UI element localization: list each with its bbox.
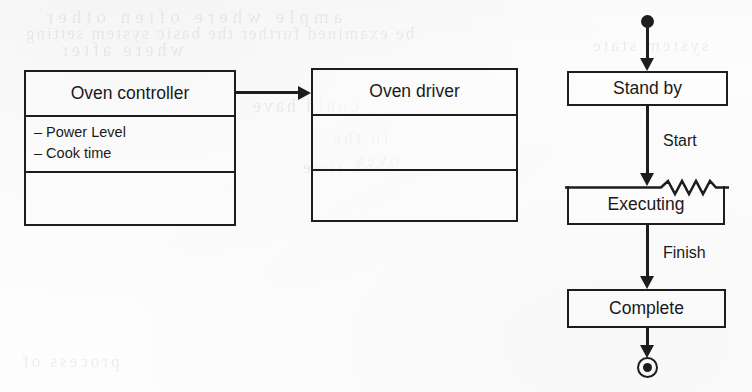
final-state-inner-dot-icon — [643, 363, 652, 372]
uml-operation-compartment — [26, 173, 234, 224]
state-complete[interactable]: Complete — [567, 289, 726, 328]
uml-class-oven-driver[interactable]: Oven driver — [311, 68, 518, 222]
state-stand-by[interactable]: Stand by — [567, 71, 728, 106]
uml-operation-compartment — [313, 171, 516, 220]
state-label: Complete — [609, 300, 684, 318]
state-label: Executing — [608, 196, 685, 214]
association-line — [236, 91, 301, 94]
uml-class-name: Oven driver — [313, 70, 516, 116]
uml-attribute-compartment: – Power Level – Cook time — [26, 117, 234, 173]
transition-label-start: Start — [663, 133, 697, 149]
transition-arrowhead-icon — [640, 58, 654, 71]
ghost-text-line: ample where often other — [42, 6, 342, 28]
transition-arrowhead-icon — [640, 276, 654, 289]
ghost-text-line: be examined further the basic system set… — [24, 24, 414, 44]
transition-line-executing-to-complete — [646, 225, 649, 279]
uml-attribute-compartment — [313, 116, 516, 171]
diagram-page: be examined further the basic system set… — [0, 0, 752, 392]
uml-attribute: – Power Level — [34, 122, 234, 143]
uml-attribute: – Cook time — [34, 143, 234, 164]
ghost-text-line: process of — [20, 352, 119, 372]
uml-class-name: Oven controller — [26, 72, 234, 117]
transition-line-standby-to-executing — [646, 106, 649, 176]
ghost-text-line: where after — [58, 40, 183, 61]
transition-line-initial-to-standby — [646, 21, 649, 63]
ghost-text-line: system state — [590, 36, 709, 56]
state-label: Stand by — [613, 80, 682, 98]
transition-label-finish: Finish — [663, 245, 706, 261]
uml-class-oven-controller[interactable]: Oven controller – Power Level – Cook tim… — [24, 70, 236, 226]
state-executing-zigzag-icon — [565, 178, 729, 198]
association-arrowhead-icon — [298, 86, 311, 100]
